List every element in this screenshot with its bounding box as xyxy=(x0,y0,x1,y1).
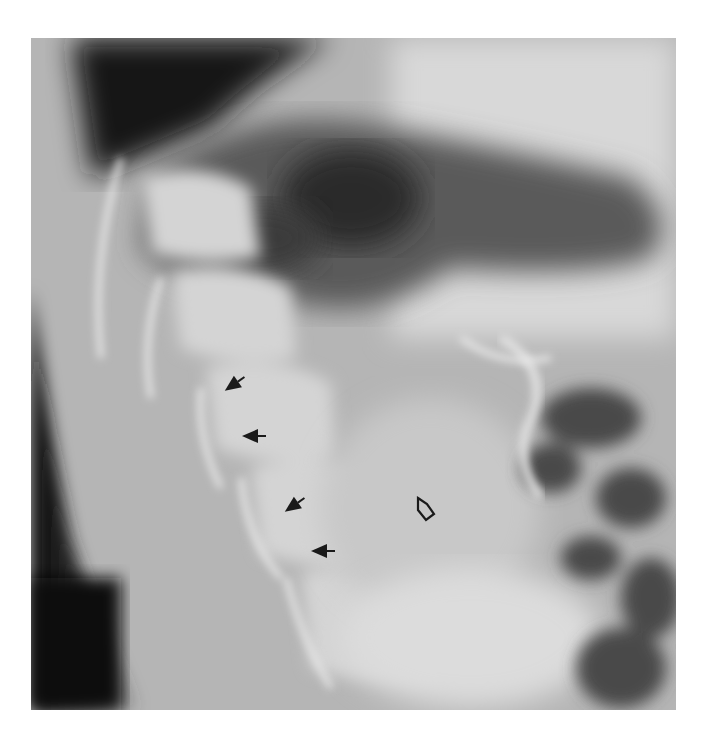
open-arrow-icon xyxy=(418,498,434,520)
arrow-icon xyxy=(242,429,266,443)
radiograph-image xyxy=(31,38,676,710)
arrow-icon xyxy=(311,544,335,558)
annotation-layer xyxy=(31,38,676,710)
arrow-icon xyxy=(221,371,249,396)
arrow-icon xyxy=(281,492,309,517)
